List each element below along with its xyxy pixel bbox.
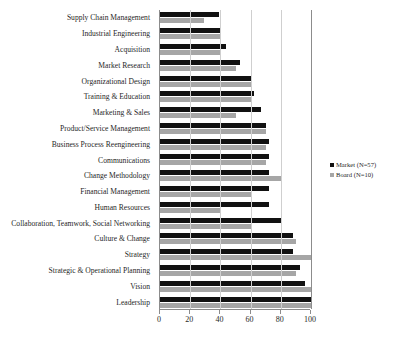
bar-row <box>160 184 310 200</box>
bar-board <box>160 113 236 118</box>
bar-board <box>160 82 251 87</box>
bar-market <box>160 249 293 254</box>
bar-row <box>160 121 310 137</box>
bar-market <box>160 281 305 286</box>
x-tick-label-20: 20 <box>185 315 193 324</box>
legend-label: Market (N=57) <box>336 160 376 170</box>
category-label: Training & Education <box>84 92 150 101</box>
bar-market <box>160 107 261 112</box>
category-label: Financial Management <box>80 187 150 196</box>
category-label: Collaboration, Teamwork, Social Networki… <box>11 219 150 228</box>
legend-label: Board (N=10) <box>336 170 373 180</box>
chart-legend: Market (N=57)Board (N=10) <box>330 160 396 180</box>
plot-area <box>159 10 310 310</box>
bar-market <box>160 154 269 159</box>
bar-row <box>160 89 310 105</box>
bar-board <box>160 224 251 229</box>
category-label: Leadership <box>116 298 150 307</box>
category-label: Supply Chain Management <box>67 13 150 22</box>
category-label: Communications <box>98 156 150 165</box>
gridline-100 <box>311 10 312 309</box>
bar-row <box>160 105 310 121</box>
category-label: Vision <box>130 282 150 291</box>
legend-item: Market (N=57) <box>330 160 396 170</box>
x-tick-mark-100 <box>310 310 311 314</box>
bar-row <box>160 294 310 310</box>
category-label: Marketing & Sales <box>93 108 150 117</box>
bar-market <box>160 76 252 81</box>
category-axis-labels: Supply Chain ManagementIndustrial Engine… <box>0 10 155 310</box>
x-tick-label-80: 80 <box>276 315 284 324</box>
bar-market <box>160 297 311 302</box>
bar-rows <box>160 10 310 309</box>
category-label: Product/Service Management <box>60 124 150 133</box>
bar-row <box>160 215 310 231</box>
x-tick-mark-60 <box>250 310 251 314</box>
category-label: Strategy <box>125 250 150 259</box>
bar-market <box>160 60 240 65</box>
bar-row <box>160 247 310 263</box>
x-tick-mark-40 <box>219 310 220 314</box>
category-label: Culture & Change <box>94 234 150 243</box>
bar-row <box>160 42 310 58</box>
category-label: Business Process Reengineering <box>52 140 150 149</box>
x-tick-label-60: 60 <box>246 315 254 324</box>
x-tick-label-0: 0 <box>157 315 161 324</box>
bar-row <box>160 168 310 184</box>
category-label: Market Research <box>98 61 150 70</box>
bar-board <box>160 255 311 260</box>
bar-row <box>160 10 310 26</box>
bar-board <box>160 239 296 244</box>
gridline-80 <box>281 10 282 309</box>
category-label: Acquisition <box>115 45 150 54</box>
bar-chart: Supply Chain ManagementIndustrial Engine… <box>0 0 399 342</box>
gridline-20 <box>190 10 191 309</box>
x-tick-label-40: 40 <box>215 315 223 324</box>
category-label: Change Methodology <box>84 171 150 180</box>
bar-market <box>160 265 300 270</box>
category-label: Organizational Design <box>82 77 150 86</box>
bar-market <box>160 139 269 144</box>
bar-row <box>160 57 310 73</box>
bar-market <box>160 202 269 207</box>
bar-board <box>160 287 311 292</box>
category-label: Human Resources <box>95 203 150 212</box>
bar-market <box>160 91 254 96</box>
bar-board <box>160 303 311 308</box>
bar-row <box>160 199 310 215</box>
legend-item: Board (N=10) <box>330 170 396 180</box>
bar-market <box>160 233 293 238</box>
bar-row <box>160 278 310 294</box>
bar-row <box>160 263 310 279</box>
bar-board <box>160 271 296 276</box>
x-tick-label-100: 100 <box>304 315 316 324</box>
bar-row <box>160 152 310 168</box>
bar-row <box>160 73 310 89</box>
bar-board <box>160 97 251 102</box>
x-tick-mark-80 <box>280 310 281 314</box>
gridline-60 <box>251 10 252 309</box>
category-label: Strategic & Operational Planning <box>49 266 150 275</box>
bar-row <box>160 136 310 152</box>
legend-swatch-icon <box>330 163 334 167</box>
bar-market <box>160 186 269 191</box>
x-tick-mark-20 <box>189 310 190 314</box>
bar-market <box>160 170 269 175</box>
category-label: Industrial Engineering <box>82 29 150 38</box>
bar-row <box>160 231 310 247</box>
bar-market <box>160 44 226 49</box>
gridline-40 <box>220 10 221 309</box>
bar-board <box>160 192 251 197</box>
x-tick-mark-0 <box>159 310 160 314</box>
legend-swatch-icon <box>330 173 334 177</box>
bar-board <box>160 66 236 71</box>
bar-board <box>160 18 204 23</box>
bar-row <box>160 26 310 42</box>
